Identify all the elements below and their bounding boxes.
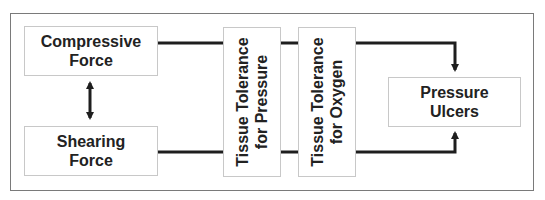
node-label-line: Shearing — [57, 132, 125, 151]
node-label-line: Compressive — [41, 32, 142, 51]
edge-tt-oxygen-to-ulcers-bottom — [355, 133, 455, 152]
node-label-line: for Pressure — [252, 37, 271, 166]
edge-tt-oxygen-to-ulcers-top — [355, 43, 455, 70]
node-label-line: Tissue Tolerance — [233, 37, 252, 166]
node-pressure-ulcers: Pressure Ulcers — [388, 77, 521, 127]
node-label: Tissue Tolerance for Oxygen — [308, 37, 346, 166]
node-tissue-tolerance-pressure: Tissue Tolerance for Pressure — [223, 27, 281, 177]
node-label-line: Pressure — [420, 83, 489, 102]
node-compressive-force: Compressive Force — [24, 26, 158, 76]
node-tissue-tolerance-oxygen: Tissue Tolerance for Oxygen — [298, 27, 356, 177]
node-label-line: for Oxygen — [327, 37, 346, 166]
node-label-line: Force — [69, 51, 113, 70]
node-shearing-force: Shearing Force — [24, 126, 158, 176]
node-label-line: Force — [69, 151, 113, 170]
node-label: Tissue Tolerance for Pressure — [233, 37, 271, 166]
node-label-line: Ulcers — [430, 102, 479, 121]
node-label-line: Tissue Tolerance — [308, 37, 327, 166]
